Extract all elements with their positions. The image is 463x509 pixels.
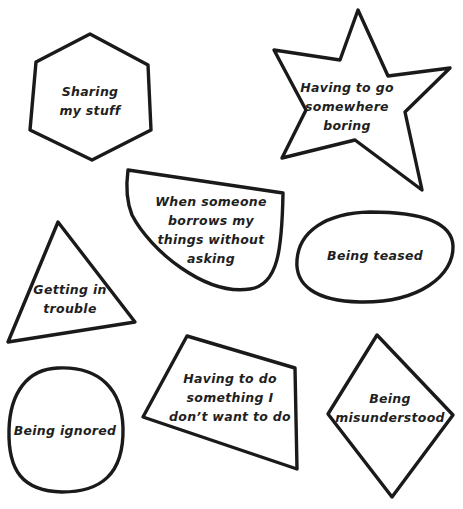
- label-line: trouble: [33, 299, 106, 318]
- label-having-to-go-somewhere-boring: Having to go somewhere boring: [300, 78, 394, 135]
- label-line: things without: [155, 230, 267, 249]
- label-being-ignored: Being ignored: [14, 421, 117, 440]
- label-being-misunderstood: Being misunderstood: [335, 389, 445, 427]
- label-line: my stuff: [59, 101, 120, 120]
- label-line: borrows my: [155, 211, 267, 230]
- label-line: Being teased: [327, 246, 423, 265]
- label-line: Getting in: [33, 280, 106, 299]
- label-line: boring: [300, 116, 394, 135]
- label-line: Being: [335, 389, 445, 408]
- label-line: Having to do: [169, 369, 291, 388]
- label-when-someone-borrows: When someone borrows my things without a…: [155, 192, 267, 268]
- label-line: Sharing: [59, 82, 120, 101]
- label-line: don’t want to do: [169, 407, 291, 426]
- label-having-to-do-something: Having to do something I don’t want to d…: [169, 369, 291, 426]
- label-line: something I: [169, 388, 291, 407]
- label-line: Having to go: [300, 78, 394, 97]
- label-line: misunderstood: [335, 408, 445, 427]
- label-being-teased: Being teased: [327, 246, 423, 265]
- label-line: When someone: [155, 192, 267, 211]
- label-getting-in-trouble: Getting in trouble: [33, 280, 106, 318]
- label-line: asking: [155, 249, 267, 268]
- label-sharing-my-stuff: Sharing my stuff: [59, 82, 120, 120]
- label-line: somewhere: [300, 97, 394, 116]
- label-line: Being ignored: [14, 421, 117, 440]
